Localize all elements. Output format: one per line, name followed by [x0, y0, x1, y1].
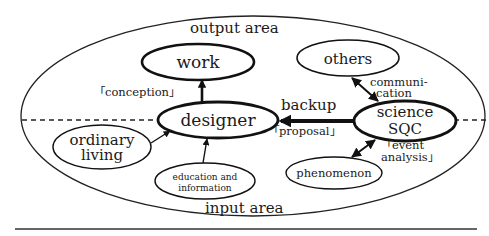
edge-education-to-designer	[203, 139, 207, 163]
edge-living-to-designer	[151, 131, 170, 143]
node-phenomenon-label: phenomenon	[296, 166, 372, 180]
node-education-label: education and	[173, 172, 238, 182]
node-others-label: others	[324, 50, 372, 68]
node-phenomenon: phenomenon	[286, 157, 382, 189]
node-others: others	[297, 40, 399, 76]
node-designer-label: designer	[180, 110, 256, 130]
node-work-label: work	[176, 52, 220, 72]
label-conception: 「conception」	[94, 85, 180, 99]
node-education-information: education and information	[155, 163, 255, 199]
label-analysis: analysis」	[381, 150, 439, 164]
output-area-label: output area	[190, 19, 279, 37]
node-science-label: science	[377, 103, 434, 121]
node-work: work	[142, 44, 254, 80]
node-designer: designer	[158, 102, 278, 138]
node-ordinary-living: ordinary living	[53, 125, 151, 169]
node-sqc-label: SQC	[388, 120, 422, 138]
label-backup: backup	[281, 96, 336, 114]
node-living-label: living	[81, 146, 124, 164]
node-science-sqc: science SQC	[354, 101, 456, 141]
input-area-label: input area	[205, 199, 284, 217]
label-proposal: 「proposal」	[268, 124, 341, 138]
node-information-label: information	[178, 183, 232, 193]
label-communication-2: cation	[376, 86, 413, 100]
edge-sqc-phenomenon	[352, 140, 375, 157]
designer-sqc-diagram: output area input area work designer oth…	[0, 0, 489, 236]
